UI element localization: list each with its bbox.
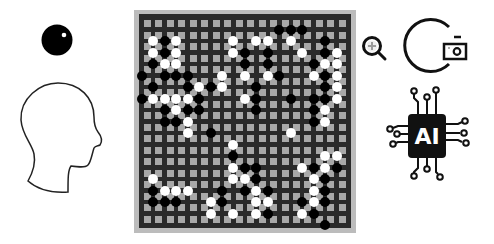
black-stone — [217, 186, 227, 196]
board-cell — [213, 43, 220, 50]
board-cell — [339, 216, 346, 223]
white-stone — [217, 82, 227, 92]
white-stone — [160, 94, 170, 104]
white-stone — [183, 117, 193, 127]
black-stone — [286, 94, 296, 104]
black-stone — [263, 59, 273, 69]
board-cell — [144, 147, 151, 154]
board-cell — [167, 170, 174, 177]
white-stone — [240, 174, 250, 184]
black-stone-icon — [40, 23, 74, 57]
board-cell — [201, 158, 208, 165]
board-cell — [293, 147, 300, 154]
black-stone — [148, 186, 158, 196]
white-stone — [240, 94, 250, 104]
white-stone — [160, 59, 170, 69]
white-stone — [286, 36, 296, 46]
black-stone — [286, 25, 296, 35]
black-stone — [160, 36, 170, 46]
board-cell — [201, 55, 208, 62]
white-stone — [263, 71, 273, 81]
black-stone — [309, 163, 319, 173]
board-cell — [270, 124, 277, 131]
black-stone — [332, 163, 342, 173]
white-stone — [320, 117, 330, 127]
board-cell — [201, 181, 208, 188]
black-stone — [171, 117, 181, 127]
white-stone — [309, 197, 319, 207]
black-stone — [194, 94, 204, 104]
board-cell — [270, 170, 277, 177]
board-cell — [270, 147, 277, 154]
white-stone — [263, 197, 273, 207]
board-cell — [213, 20, 220, 27]
white-stone — [332, 94, 342, 104]
board-cell — [339, 20, 346, 27]
white-stone — [320, 163, 330, 173]
camera-icon[interactable] — [441, 34, 469, 64]
white-stone — [148, 48, 158, 58]
board-cell — [224, 101, 231, 108]
board-cell — [270, 135, 277, 142]
white-stone — [217, 71, 227, 81]
black-stone — [160, 71, 170, 81]
board-cell — [282, 147, 289, 154]
board-cell — [213, 147, 220, 154]
board-cell — [201, 170, 208, 177]
white-stone — [297, 209, 307, 219]
board-cell — [155, 216, 162, 223]
white-stone — [332, 59, 342, 69]
white-stone — [263, 36, 273, 46]
zoom-in-icon[interactable] — [360, 33, 392, 65]
black-stone — [206, 128, 216, 138]
board-cell — [236, 20, 243, 27]
board-cell — [339, 193, 346, 200]
board-cell — [339, 124, 346, 131]
board-cell — [270, 158, 277, 165]
board-cell — [167, 20, 174, 27]
board-cell — [282, 158, 289, 165]
board-cell — [282, 181, 289, 188]
white-stone — [194, 82, 204, 92]
board-cell — [201, 43, 208, 50]
white-stone — [160, 186, 170, 196]
board-cell — [213, 101, 220, 108]
board-cell — [190, 43, 197, 50]
black-stone — [240, 163, 250, 173]
white-stone — [297, 163, 307, 173]
board-cell — [293, 78, 300, 85]
board-cell — [282, 193, 289, 200]
board-cell — [213, 55, 220, 62]
black-stone — [183, 105, 193, 115]
board-cell — [178, 216, 185, 223]
black-stone — [183, 82, 193, 92]
board-cell — [316, 135, 323, 142]
black-stone — [160, 197, 170, 207]
board-cell — [190, 20, 197, 27]
human-head-icon — [18, 80, 108, 195]
black-stone — [160, 105, 170, 115]
board-cell — [144, 20, 151, 27]
board-cell — [259, 147, 266, 154]
board-cell — [259, 135, 266, 142]
board-cell — [247, 124, 254, 131]
black-stone — [240, 48, 250, 58]
white-stone — [228, 163, 238, 173]
board-cell — [144, 124, 151, 131]
black-stone — [137, 71, 147, 81]
board-cell — [201, 32, 208, 39]
board-cell — [190, 170, 197, 177]
black-stone — [171, 71, 181, 81]
black-stone — [160, 117, 170, 127]
black-stone — [320, 186, 330, 196]
board-cell — [224, 124, 231, 131]
board-cell — [339, 181, 346, 188]
board-cell — [144, 158, 151, 165]
white-stone — [332, 71, 342, 81]
board-cell — [190, 216, 197, 223]
black-stone — [320, 94, 330, 104]
go-board[interactable] — [139, 14, 351, 228]
white-stone — [183, 94, 193, 104]
black-stone — [251, 163, 261, 173]
board-cell — [327, 135, 334, 142]
